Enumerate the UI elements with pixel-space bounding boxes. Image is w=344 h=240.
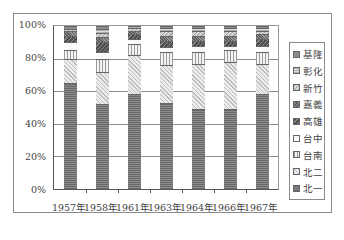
- x-tick-mark: [86, 190, 87, 193]
- bar-segment-北二: [256, 64, 269, 95]
- legend-item: 嘉義: [293, 97, 323, 111]
- legend-item: 基隆: [293, 47, 323, 61]
- bar-segment-北一: [256, 94, 269, 189]
- legend-item: 彰化: [293, 64, 323, 78]
- x-tick-mark: [182, 190, 183, 193]
- legend-label: 北二: [303, 165, 323, 179]
- x-tick-mark: [150, 190, 151, 193]
- bar-segment-高雄: [96, 42, 109, 52]
- bar-segment-北二: [64, 59, 77, 83]
- bar-segment-北二: [128, 55, 141, 94]
- legend-item: 高雄: [293, 114, 323, 128]
- bar-segment-北一: [128, 94, 141, 189]
- bar-segment-台南: [160, 52, 173, 65]
- bar-segment-台南: [224, 50, 237, 61]
- stacked-bar: [96, 26, 109, 189]
- bar-segment-北一: [96, 104, 109, 189]
- bar-segment-北二: [96, 72, 109, 105]
- legend-swatch-icon: [293, 84, 300, 91]
- legend-swatch-icon: [293, 51, 300, 58]
- bar-segment-台南: [128, 44, 141, 55]
- legend-swatch-icon: [293, 118, 300, 125]
- bar-segment-北一: [64, 83, 77, 189]
- plot-area: [53, 25, 279, 190]
- stacked-bar: [64, 26, 77, 189]
- legend-item: 北一: [293, 181, 323, 195]
- stacked-bar: [256, 26, 269, 189]
- bar-segment-台南: [256, 52, 269, 63]
- bar-segment-北一: [224, 109, 237, 189]
- legend-label: 基隆: [303, 47, 323, 61]
- legend-label: 彰化: [303, 64, 323, 78]
- legend: 基隆彰化新竹嘉義高雄台中台南北二北一: [289, 42, 325, 200]
- y-tick-label: 0%: [10, 185, 46, 195]
- legend-label: 台南: [303, 148, 323, 162]
- legend-swatch-icon: [293, 168, 300, 175]
- bar-segment-台南: [64, 50, 77, 58]
- bar-segment-台南: [96, 59, 109, 72]
- y-tick-label: 80%: [10, 53, 46, 63]
- bar-segment-北二: [160, 65, 173, 102]
- legend-label: 新竹: [303, 81, 323, 95]
- y-tick-label: 20%: [10, 152, 46, 162]
- bar-segment-北二: [192, 64, 205, 110]
- stacked-bar: [224, 26, 237, 189]
- y-tick-label: 100%: [10, 20, 46, 30]
- legend-item: 北二: [293, 165, 323, 179]
- legend-item: 新竹: [293, 81, 323, 95]
- y-tick-label: 60%: [10, 86, 46, 96]
- stacked-bar: [160, 26, 173, 189]
- legend-swatch-icon: [293, 101, 300, 108]
- x-tick-mark: [214, 190, 215, 193]
- legend-swatch-icon: [293, 135, 300, 142]
- y-tick-label: 40%: [10, 119, 46, 129]
- legend-label: 嘉義: [303, 97, 323, 111]
- legend-label: 高雄: [303, 114, 323, 128]
- x-tick-mark: [118, 190, 119, 193]
- legend-label: 台中: [303, 131, 323, 145]
- stacked-bar: [192, 26, 205, 189]
- bar-segment-北一: [192, 109, 205, 189]
- x-tick-mark: [246, 190, 247, 193]
- legend-label: 北一: [303, 181, 323, 195]
- bar-segment-北二: [224, 62, 237, 109]
- legend-swatch-icon: [293, 185, 300, 192]
- bar-segment-北一: [160, 103, 173, 189]
- legend-swatch-icon: [293, 67, 300, 74]
- stacked-bar: [128, 26, 141, 189]
- bar-segment-台中: [64, 42, 77, 50]
- bar-segment-台南: [192, 52, 205, 63]
- legend-swatch-icon: [293, 151, 300, 158]
- x-tick-label: 1967年: [241, 200, 281, 214]
- legend-item: 台南: [293, 148, 323, 162]
- legend-item: 台中: [293, 131, 323, 145]
